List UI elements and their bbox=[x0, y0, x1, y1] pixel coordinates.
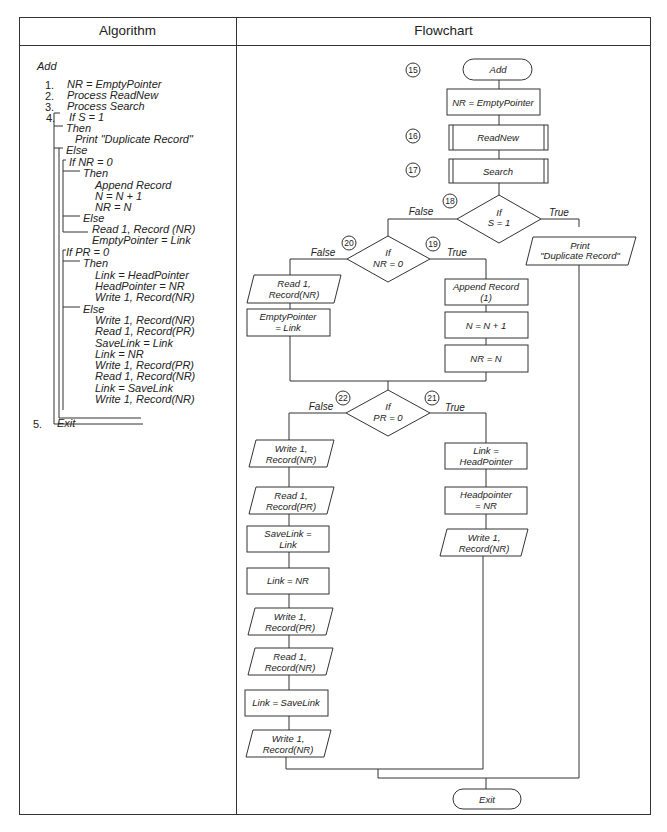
node-text: = Link bbox=[275, 322, 302, 333]
connector bbox=[541, 219, 579, 227]
branch-label-true: True bbox=[447, 247, 467, 258]
connector bbox=[290, 259, 347, 275]
node-text: Read 1, bbox=[277, 278, 310, 289]
node-text: Append Record bbox=[452, 281, 520, 292]
node-text: NR = 0 bbox=[373, 258, 404, 269]
node-text: N = N + 1 bbox=[466, 320, 507, 331]
node-text: Record(NR) bbox=[266, 454, 317, 465]
node-text: NR = EmptyPointer bbox=[452, 97, 534, 108]
node-text: Record(NR) bbox=[269, 289, 320, 300]
branch-label-false: False bbox=[309, 401, 334, 412]
node-text: Write 1, bbox=[275, 443, 308, 454]
node-text: Record(NR) bbox=[459, 543, 510, 554]
node-text: "Duplicate Record" bbox=[540, 250, 620, 261]
step-number: 17 bbox=[408, 165, 418, 175]
connector bbox=[388, 219, 457, 236]
node-text: Record(PR) bbox=[265, 622, 315, 633]
node-text: Link = SaveLink bbox=[252, 697, 321, 708]
node-text: Link = bbox=[473, 445, 499, 456]
node-text: S = 1 bbox=[488, 217, 510, 228]
step-number: 16 bbox=[408, 131, 418, 141]
node-text: = NR bbox=[475, 500, 497, 511]
node-text: ReadNew bbox=[477, 132, 520, 143]
branch-label-true: True bbox=[549, 207, 569, 218]
connector bbox=[430, 259, 486, 279]
node-text: Record(PR) bbox=[266, 501, 316, 512]
step-number: 20 bbox=[344, 238, 354, 248]
node-text: NR = N bbox=[470, 353, 502, 364]
node-text: Read 1, bbox=[273, 651, 306, 662]
branch-label-false: False bbox=[409, 206, 434, 217]
node-text: Write 1, bbox=[468, 532, 501, 543]
node-text: Search bbox=[483, 166, 513, 177]
node-text: Write 1, bbox=[274, 611, 307, 622]
node-text: EmptyPointer bbox=[259, 311, 317, 322]
step-number: 22 bbox=[338, 393, 348, 403]
node-text: Link bbox=[279, 539, 298, 550]
node-text: PR = 0 bbox=[373, 412, 403, 423]
node-text: Read 1, bbox=[274, 490, 307, 501]
connector bbox=[430, 413, 486, 443]
step-number: 19 bbox=[428, 239, 438, 249]
connector bbox=[378, 265, 579, 778]
flowchart-canvas: Add NR = EmptyPointer ReadNew Search If … bbox=[0, 0, 667, 832]
branch-label-true: True bbox=[445, 402, 465, 413]
node-text: Record(NR) bbox=[263, 744, 314, 755]
connector bbox=[289, 413, 346, 440]
node-text: Exit bbox=[479, 794, 495, 805]
node-text: Record(NR) bbox=[265, 662, 316, 673]
node-text: SaveLink = bbox=[264, 528, 312, 539]
step-number: 21 bbox=[427, 393, 437, 403]
node-text: Headpointer bbox=[460, 489, 513, 500]
node-text: Write 1, bbox=[272, 733, 305, 744]
node-text: (1) bbox=[480, 292, 492, 303]
node-text: HeadPointer bbox=[460, 456, 514, 467]
node-text: Add bbox=[489, 64, 508, 75]
connector bbox=[286, 757, 483, 769]
step-number: 18 bbox=[445, 196, 455, 206]
branch-label-false: False bbox=[311, 247, 336, 258]
step-number: 15 bbox=[408, 65, 418, 75]
node-text: Link = NR bbox=[267, 575, 309, 586]
